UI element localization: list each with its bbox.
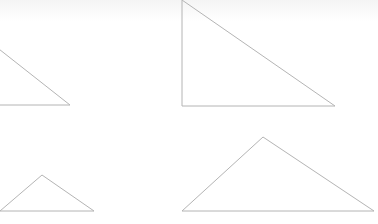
triangle-bottom-left [0,175,94,211]
triangles-svg [0,0,378,224]
diagram-canvas [0,0,378,224]
triangle-top-right [182,0,335,106]
triangle-top-left [0,42,70,105]
triangle-bottom-right [182,137,374,211]
